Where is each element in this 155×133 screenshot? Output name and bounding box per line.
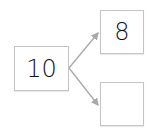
bottom-part-box[interactable] [100, 82, 144, 126]
top-part-value: 8 [114, 18, 129, 46]
whole-value: 10 [26, 55, 57, 83]
arrow-to-top-part [69, 33, 98, 68]
top-part-box: 8 [100, 10, 144, 54]
whole-number-box: 10 [14, 46, 69, 91]
arrow-to-bottom-part [69, 68, 98, 105]
